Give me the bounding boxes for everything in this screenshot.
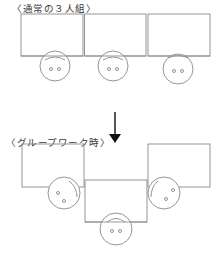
student-face-center <box>100 213 132 245</box>
desk-2 <box>85 14 147 56</box>
student-face-2 <box>98 51 128 81</box>
normal-group <box>21 14 210 84</box>
student-face-right <box>148 177 180 209</box>
desk-3 <box>148 14 210 56</box>
down-arrow-icon <box>109 112 121 143</box>
desk-1 <box>21 14 83 56</box>
student-face-1 <box>40 51 70 81</box>
seating-diagram <box>0 0 212 255</box>
student-face-left <box>48 177 80 209</box>
student-face-3 <box>163 54 193 84</box>
groupwork-group <box>22 144 210 245</box>
